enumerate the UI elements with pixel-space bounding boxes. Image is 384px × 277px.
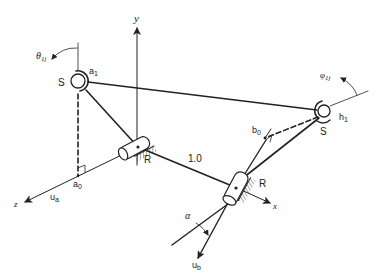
spherical-left-label: S bbox=[58, 77, 65, 88]
ua-label: ua bbox=[50, 192, 59, 203]
spherical-joint-left: S a1 bbox=[58, 66, 98, 94]
theta-arrow-icon bbox=[52, 48, 77, 59]
y-axis-label: y bbox=[133, 12, 139, 24]
origin-point bbox=[136, 145, 139, 148]
coupler-link bbox=[88, 82, 317, 110]
b0-label: b0 bbox=[252, 125, 261, 136]
a1-label: a1 bbox=[89, 66, 98, 77]
right-pivot-point bbox=[234, 186, 237, 189]
spherical-joint-right: h1 S bbox=[315, 101, 348, 137]
revolute-left-label: R bbox=[144, 154, 151, 165]
input-crank bbox=[86, 90, 138, 147]
dashed-h1-b0 bbox=[265, 117, 318, 138]
z-axis-label: z bbox=[13, 199, 18, 209]
point-a0 bbox=[77, 175, 79, 177]
x-axis-label: x bbox=[272, 201, 277, 211]
phi-reference-line bbox=[330, 91, 368, 106]
spherical-right-label: S bbox=[320, 126, 327, 137]
alpha-reference-line bbox=[172, 201, 232, 245]
h1-label: h1 bbox=[339, 112, 348, 123]
alpha-arrow-icon bbox=[196, 223, 208, 235]
a0-label: a0 bbox=[73, 179, 82, 190]
revolute-right-label: R bbox=[259, 178, 266, 189]
right-angle-mark bbox=[78, 165, 85, 172]
alpha-label: α bbox=[185, 210, 191, 221]
phi-arrow-icon bbox=[341, 78, 357, 95]
rssr-linkage-diagram: y z ua 1.0 x a0 θ1j S a1 R bbox=[0, 0, 384, 277]
ground-link-length: 1.0 bbox=[188, 153, 202, 164]
theta-label: θ1j bbox=[36, 50, 46, 63]
phi-label: φ1j bbox=[320, 70, 330, 82]
ub-label: ub bbox=[192, 260, 201, 271]
